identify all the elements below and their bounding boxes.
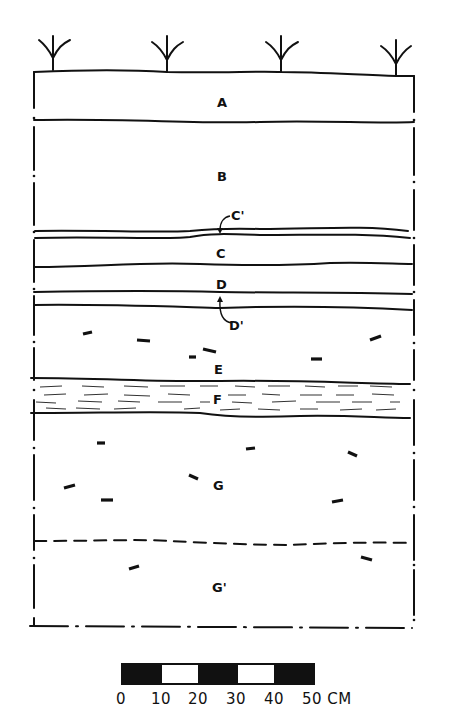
- scale-tick-30: 30: [226, 690, 246, 707]
- boundary-e-f: [31, 378, 410, 384]
- layer-label-c: C: [216, 246, 226, 261]
- layer-label-f: F: [213, 392, 222, 407]
- layer-label-g-prime: G': [212, 580, 227, 595]
- plant-icon: [381, 40, 411, 76]
- scale-tick-10: 10: [151, 690, 171, 707]
- plant-icon: [266, 36, 298, 72]
- boundary-c-d: [34, 263, 412, 267]
- rock-fragments-layer-g-prime: [129, 557, 372, 569]
- layer-label-b: B: [217, 169, 227, 184]
- plant-icon: [152, 36, 183, 72]
- rock-fragments-layer-g: [64, 443, 357, 502]
- boundary-d-prime: [34, 305, 412, 310]
- layer-label-g: G: [213, 478, 224, 493]
- layer-label-c-prime: C': [231, 208, 245, 223]
- boundary-a-b: [34, 120, 414, 123]
- left-profile-edge: [33, 72, 36, 625]
- boundary-c-prime-bottom: [35, 234, 410, 238]
- scale-tick-0: 0: [116, 690, 126, 707]
- right-profile-edge: [413, 76, 416, 621]
- boundary-g-g-prime: [34, 540, 412, 545]
- profile-bottom-line: [30, 626, 412, 628]
- scale-tick-40: 40: [264, 690, 284, 707]
- layer-label-e: E: [214, 362, 223, 377]
- boundary-f-g: [31, 412, 410, 418]
- rock-fragments-layer-e: [83, 332, 381, 359]
- ground-surface-line: [34, 70, 414, 76]
- plant-icon: [39, 36, 70, 70]
- layer-label-d: D: [216, 277, 227, 292]
- layer-label-d-prime: D': [229, 318, 244, 333]
- scale-tick-20: 20: [188, 690, 208, 707]
- c-prime-arrowhead-icon: [217, 228, 223, 234]
- layer-label-a: A: [217, 95, 227, 110]
- d-prime-arrowhead-icon: [217, 296, 223, 302]
- scale-bar: [122, 664, 314, 684]
- scale-tick-50-cm: 50 CM: [302, 690, 352, 707]
- soil-profile-diagram: A B C' C D D' E F G G' 0 10 20 30 40 50 …: [0, 0, 449, 707]
